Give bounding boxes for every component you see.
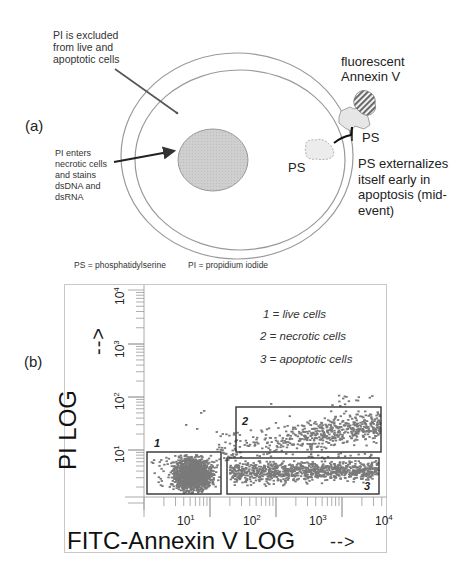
- footnote-pi: PI = propidium iodide: [188, 261, 268, 271]
- pi-enters-line: necrotic cells: [55, 159, 107, 170]
- gate-1-label: 1: [154, 437, 160, 449]
- gate-2-label: 2: [241, 415, 248, 427]
- y-tick-label: 101: [112, 445, 127, 463]
- fluorescent-annexin-text: fluorescent Annexin V: [341, 55, 405, 85]
- x-tick-label: 101: [177, 513, 195, 528]
- ps-inner-blob: [305, 139, 334, 159]
- x-tick-label: 103: [309, 513, 327, 528]
- y-axis-ticks: [128, 290, 144, 503]
- pi-enters-arrow: [114, 151, 174, 162]
- pi-enters-line: PI enters: [55, 148, 107, 159]
- y-tick-label: 104: [112, 287, 127, 305]
- ps-inner-label: PS: [288, 161, 305, 176]
- ps-externalizes-text: PS externalizes itself early in apoptosi…: [358, 156, 448, 218]
- footnote-ps: PS = phosphatidylserine: [74, 261, 166, 271]
- legend-item-necrotic: 2 = necrotic cells: [260, 330, 346, 343]
- legend-item-live: 1 = live cells: [263, 308, 326, 321]
- ps-externalizes-line: apoptosis (mid-: [358, 187, 448, 203]
- ps-externalizes-line: itself early in: [358, 172, 448, 188]
- x-axis-title: FITC-Annexin V LOG: [67, 527, 295, 555]
- pi-enters-line: dsRNA: [55, 192, 107, 203]
- x-tick-label: 102: [243, 513, 261, 528]
- pi-excluded-text: PI is excluded from live and apoptotic c…: [53, 29, 120, 65]
- pi-enters-line: and stains: [55, 170, 107, 181]
- pi-excluded-arrow: [115, 69, 177, 113]
- ps-outer-label: PS: [362, 131, 379, 146]
- y-tick-label: 102: [112, 392, 127, 410]
- fluorescent-line: Annexin V: [341, 70, 405, 85]
- pi-enters-line: dsDNA and: [55, 181, 107, 192]
- fluorescent-line: fluorescent: [341, 55, 405, 70]
- y-tick-label: 103: [112, 340, 127, 358]
- pi-excluded-line: apoptotic cells: [53, 53, 120, 65]
- x-tick-label: 104: [375, 513, 393, 528]
- scatter-dots: [151, 395, 382, 494]
- y-axis-arrow: -->: [87, 327, 110, 355]
- nucleus: [178, 129, 248, 191]
- pi-excluded-line: PI is excluded: [53, 29, 120, 41]
- y-axis-title: PI LOG: [54, 390, 82, 470]
- gate-3-label: 3: [364, 480, 370, 492]
- x-axis-arrow: -->: [330, 532, 356, 553]
- ps-externalizes-line: event): [358, 203, 448, 219]
- pi-excluded-line: from live and: [53, 41, 120, 53]
- legend-item-apoptotic: 3 = apoptotic cells: [260, 353, 352, 366]
- ps-externalizes-line: PS externalizes: [358, 156, 448, 172]
- pi-enters-text: PI enters necrotic cells and stains dsDN…: [55, 148, 107, 203]
